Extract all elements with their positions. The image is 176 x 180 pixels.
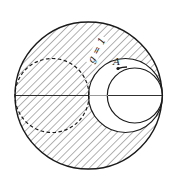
point-a-marker <box>116 67 119 70</box>
point-a-label: A <box>112 56 120 67</box>
smith-chart-diagram: g = 1 A <box>0 0 176 180</box>
